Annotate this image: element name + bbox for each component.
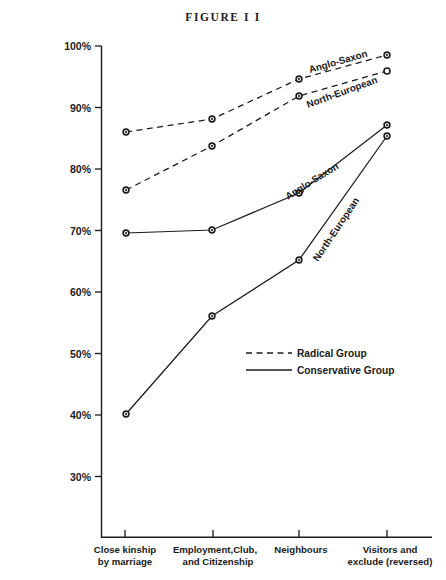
data-point-core — [125, 413, 127, 415]
y-tick-label-80: 80% — [70, 163, 92, 175]
data-point — [384, 68, 390, 74]
x-label-employment-line2: and Citizenship — [183, 556, 254, 567]
x-label-neighbours-line1: Neighbours — [274, 544, 327, 555]
legend-label-radical: Radical Group — [297, 348, 367, 359]
series-label-conservative-anglo-saxon: Anglo-Saxon — [283, 160, 340, 201]
x-axis-ticks — [125, 530, 387, 538]
legend-label-conservative: Conservative Group — [297, 365, 394, 376]
y-tick-label-100: 100% — [64, 40, 92, 52]
series-radical-north-european: North-European — [123, 68, 390, 193]
series-label-conservative-north-european: North-European — [311, 195, 362, 263]
data-point-core — [211, 229, 213, 231]
y-tick-label-90: 90% — [70, 102, 92, 114]
chart-legend: Radical Group Conservative Group — [246, 348, 394, 376]
y-tick-label-70: 70% — [70, 225, 92, 237]
x-label-close-kinship-line2: by marriage — [98, 556, 152, 567]
data-point-core — [386, 135, 388, 137]
data-point-core — [386, 54, 388, 56]
data-point-core — [211, 118, 213, 120]
x-axis-category-labels: Close kinship by marriage Employment,Clu… — [94, 544, 433, 567]
series-label-radical-anglo-saxon: Anglo-Saxon — [308, 48, 369, 75]
data-point-core — [125, 131, 127, 133]
chart-axes — [102, 46, 433, 538]
y-axis-ticks: 100% 90% 80% 70% 60% 50% 40% 30% — [64, 40, 101, 483]
x-label-visitors-line1: Visitors and — [363, 544, 418, 555]
data-point-core — [211, 145, 213, 147]
series-label-radical-north-european: North-European — [305, 74, 379, 110]
data-point-core — [386, 124, 388, 126]
series-conservative-anglo-saxon: Anglo-Saxon — [123, 122, 390, 236]
data-point-core — [125, 189, 127, 191]
data-point-core — [125, 232, 127, 234]
x-label-employment-line1: Employment,Club, — [173, 544, 258, 555]
data-point-core — [211, 315, 213, 317]
y-tick-label-60: 60% — [70, 286, 92, 298]
y-tick-label-50: 50% — [70, 348, 92, 360]
data-point-core — [298, 78, 300, 80]
y-tick-label-40: 40% — [70, 409, 92, 421]
x-label-close-kinship-line1: Close kinship — [94, 544, 157, 555]
x-label-visitors-line2: exclude (reversed) — [348, 556, 433, 567]
y-tick-label-30: 30% — [70, 471, 92, 483]
data-point-core — [298, 95, 300, 97]
line-chart: 100% 90% 80% 70% 60% 50% 40% 30% Close k… — [0, 0, 446, 580]
figure-container: FIGURE I I 100% 90% 80% 70% 60% 50% 40% … — [0, 0, 446, 580]
data-point-core — [298, 259, 300, 261]
